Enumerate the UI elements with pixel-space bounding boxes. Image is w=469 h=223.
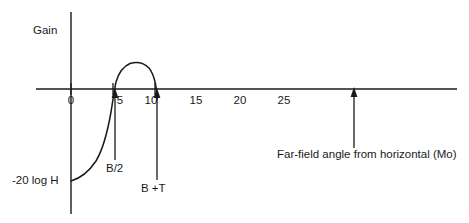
figure-gain-vs-far-field-angle: Gain -20 log H 0 5 10 15 20 25 B/2 B +T …: [0, 0, 469, 223]
annotation-label-b-over-2: B/2: [106, 163, 123, 175]
x-tick-label-15: 15: [190, 95, 203, 107]
plot-canvas: [0, 0, 469, 223]
y-axis-bottom-label: -20 log H: [12, 175, 59, 187]
x-tick-label-0: 0: [68, 95, 74, 107]
y-axis-title: Gain: [33, 25, 57, 37]
x-tick-label-10: 10: [145, 95, 158, 107]
annotation-label-b-plus-t: B +T: [141, 183, 166, 195]
x-axis-caption: Far-field angle from horizontal (Mo): [277, 149, 457, 161]
x-tick-label-25: 25: [278, 95, 291, 107]
x-tick-label-5: 5: [117, 95, 123, 107]
annotation-arrow-far-field: [351, 87, 358, 148]
x-tick-label-20: 20: [234, 95, 247, 107]
